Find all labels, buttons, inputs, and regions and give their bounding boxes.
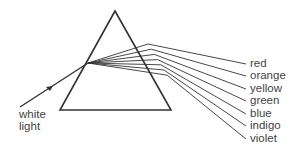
color-label-orange: orange <box>250 69 286 81</box>
dispersed-rays <box>88 44 246 139</box>
color-label-red: red <box>250 57 267 69</box>
color-label-green: green <box>250 94 279 106</box>
incident-ray <box>20 63 88 107</box>
color-label-indigo: indigo <box>250 119 281 131</box>
color-label-yellow: yellow <box>250 82 282 94</box>
color-label-violet: violet <box>250 132 277 144</box>
label-line1: white <box>19 108 46 120</box>
ray-green-out <box>158 60 246 101</box>
white-light-label: white light <box>19 108 46 132</box>
color-label-blue: blue <box>250 107 272 119</box>
ray-orange-out <box>151 49 246 76</box>
prism-triangle <box>60 11 171 110</box>
label-line2: light <box>19 120 46 132</box>
ray-indigo-out <box>164 70 246 126</box>
prism-diagram: white light redorangeyellowgreenblueindi… <box>0 0 293 151</box>
ray-red-out <box>148 44 246 64</box>
